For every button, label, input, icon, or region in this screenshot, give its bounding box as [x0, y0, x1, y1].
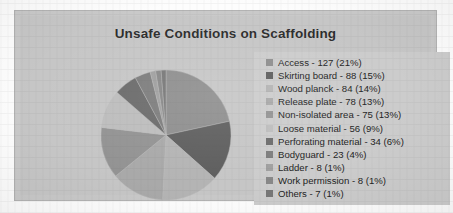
legend-item[interactable]: Ladder - 8 (1%): [266, 161, 446, 174]
legend-item[interactable]: Release plate - 78 (13%): [266, 95, 446, 108]
chart-plot-area: Unsafe Conditions on Scaffolding Access …: [20, 16, 431, 195]
pie-chart-svg: [88, 61, 238, 205]
legend-swatch-icon: [266, 177, 273, 184]
chart-title: Unsafe Conditions on Scaffolding: [20, 26, 431, 41]
legend-item-label: Access - 127 (21%): [278, 56, 362, 69]
legend-swatch-icon: [266, 151, 273, 158]
legend-item[interactable]: Wood planck - 84 (14%): [266, 82, 446, 95]
legend-swatch-icon: [266, 111, 273, 118]
legend-item[interactable]: Others - 7 (1%): [266, 187, 446, 200]
legend-item[interactable]: Non-isolated area - 75 (13%): [266, 108, 446, 121]
pie-slice-group: [101, 70, 231, 200]
legend-item[interactable]: Work permission - 8 (1%): [266, 174, 446, 187]
legend-item-label: Perforating material - 34 (6%): [278, 135, 404, 148]
legend-swatch-icon: [266, 98, 273, 105]
legend-item-label: Bodyguard - 23 (4%): [278, 148, 367, 161]
legend-swatch-icon: [266, 125, 273, 132]
legend-swatch-icon: [266, 59, 273, 66]
legend-item-label: Wood planck - 84 (14%): [278, 82, 381, 95]
legend-item-label: Non-isolated area - 75 (13%): [278, 108, 401, 121]
legend-item-label: Skirting board - 88 (15%): [278, 69, 385, 82]
legend-item-label: Work permission - 8 (1%): [278, 174, 386, 187]
legend-swatch-icon: [266, 164, 273, 171]
legend-item-label: Ladder - 8 (1%): [278, 161, 345, 174]
legend-swatch-icon: [266, 190, 273, 197]
pie-chart[interactable]: [88, 61, 238, 205]
legend-swatch-icon: [266, 85, 273, 92]
chart-frame: Unsafe Conditions on Scaffolding Access …: [14, 10, 437, 201]
legend-item[interactable]: Loose material - 56 (9%): [266, 121, 446, 134]
legend-item-label: Loose material - 56 (9%): [278, 122, 383, 135]
legend-item[interactable]: Access - 127 (21%): [266, 56, 446, 69]
legend-item[interactable]: Bodyguard - 23 (4%): [266, 148, 446, 161]
chart-legend: Access - 127 (21%)Skirting board - 88 (1…: [254, 52, 450, 205]
legend-swatch-icon: [266, 138, 273, 145]
scanned-page: Unsafe Conditions on Scaffolding Access …: [0, 0, 453, 213]
legend-swatch-icon: [266, 72, 273, 79]
legend-item[interactable]: Perforating material - 34 (6%): [266, 135, 446, 148]
legend-item[interactable]: Skirting board - 88 (15%): [266, 69, 446, 82]
legend-item-label: Release plate - 78 (13%): [278, 95, 384, 108]
legend-item-label: Others - 7 (1%): [278, 187, 344, 200]
